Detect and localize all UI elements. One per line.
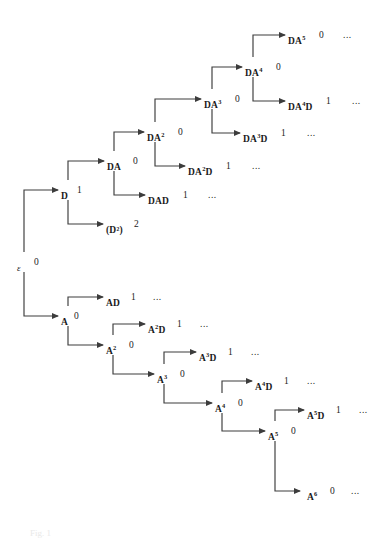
node-value-DAD: 1 xyxy=(183,191,188,201)
node-label-DA4: DA4 xyxy=(245,68,263,78)
node-value-A3: 0 xyxy=(180,370,185,380)
node-label-A3: A3 xyxy=(157,375,167,385)
node-value-A2D: 1 xyxy=(177,320,182,330)
node-value-D2: 2 xyxy=(134,220,139,230)
tree-edge xyxy=(222,413,265,431)
node-ellipsis-A2D: ... xyxy=(200,320,209,330)
tree-edge xyxy=(212,67,242,89)
node-label-suffix-A4D: D xyxy=(265,382,272,392)
node-label-exponent-DA4: 4 xyxy=(259,66,262,73)
node-ellipsis-A3D: ... xyxy=(251,348,260,358)
node-ellipsis-A4D: ... xyxy=(307,377,316,387)
tree-edge xyxy=(212,109,240,133)
tree-node-A3D: A3D1... xyxy=(199,348,217,364)
tree-edge xyxy=(68,326,103,345)
node-value-DA5: 0 xyxy=(319,31,324,41)
node-ellipsis-DA4D: ... xyxy=(352,97,361,107)
tree-edges-canvas xyxy=(0,0,387,541)
tree-edge xyxy=(113,355,154,374)
tree-edge xyxy=(114,132,144,151)
node-value-A2: 0 xyxy=(129,341,134,351)
tree-edge xyxy=(24,190,58,252)
node-label-A2D: A2D xyxy=(148,325,166,335)
tree-node-A3: A30 xyxy=(157,370,167,386)
node-label-DA2: DA2 xyxy=(147,133,165,143)
tree-node-DA5: DA50... xyxy=(288,31,306,47)
node-label-suffix-A2D: D xyxy=(158,325,165,335)
node-ellipsis-AD: ... xyxy=(153,293,162,303)
tree-node-A: A0 xyxy=(61,312,68,328)
node-value-A6: 0 xyxy=(330,487,335,497)
tree-node-DA4: DA40 xyxy=(245,63,263,79)
node-label-DA2D: DA2D xyxy=(188,167,213,177)
node-label-suffix-DA4D: D xyxy=(306,102,313,112)
tree-node-DA2: DA20 xyxy=(147,128,165,144)
tree-node-A4: A40 xyxy=(215,399,225,415)
node-value-A4: 0 xyxy=(238,399,243,409)
node-label-suffix-DA2D: D xyxy=(206,167,213,177)
tree-node-DA4D: DA4D1... xyxy=(288,97,313,113)
node-label-AD: AD xyxy=(106,298,120,308)
node-ellipsis-DA3D: ... xyxy=(307,129,316,139)
tree-node-A2: A20 xyxy=(106,341,116,357)
node-value-DA2: 0 xyxy=(178,128,183,138)
tree-node-DA2D: DA2D1... xyxy=(188,162,213,178)
node-label-A4: A4 xyxy=(215,404,225,414)
node-value-DA3D: 1 xyxy=(281,129,286,139)
tree-node-D2: (D²)2 xyxy=(106,220,123,236)
node-label-exponent-DA3: 3 xyxy=(218,98,221,105)
node-ellipsis-DA5: ... xyxy=(343,31,352,41)
tree-edge xyxy=(24,272,58,316)
node-label-DAD: DAD xyxy=(148,196,169,206)
tree-edge xyxy=(68,297,103,306)
node-label-exponent-A6: 6 xyxy=(314,490,317,497)
node-label-suffix-A3D: D xyxy=(209,353,216,363)
node-value-A: 0 xyxy=(74,312,79,322)
node-label-A3D: A3D xyxy=(199,353,217,363)
node-label-exponent-DA5: 5 xyxy=(302,34,305,41)
node-ellipsis-A6: ... xyxy=(351,487,360,497)
tree-edge xyxy=(155,99,201,122)
node-label-DA5: DA5 xyxy=(288,36,306,46)
tree-edge xyxy=(222,381,252,393)
node-label-exponent-DA2: 2 xyxy=(161,131,164,138)
node-label-A: A xyxy=(61,317,68,327)
node-label-exponent-A5: 5 xyxy=(275,430,278,437)
tree-node-A2D: A2D1... xyxy=(148,320,166,336)
tree-node-A5: A50 xyxy=(268,427,278,443)
node-label-DA4D: DA4D xyxy=(288,102,313,112)
tree-node-A4D: A4D1... xyxy=(255,377,273,393)
node-value-D: 1 xyxy=(77,186,82,196)
tree-edge xyxy=(275,441,300,491)
tree-edge xyxy=(155,142,185,166)
node-value-DA3: 0 xyxy=(235,95,240,105)
node-label-D: D xyxy=(61,191,68,201)
tree-edge xyxy=(275,410,304,421)
node-label-exponent-A2: 2 xyxy=(113,344,116,351)
tree-node-A6: A60... xyxy=(307,487,317,503)
tree-edge xyxy=(253,77,285,101)
node-label-DA3: DA3 xyxy=(204,100,222,110)
tree-node-DA3: DA30 xyxy=(204,95,222,111)
node-label-DA3D: DA3D xyxy=(243,134,268,144)
tree-edge xyxy=(164,352,196,364)
tree-edge xyxy=(164,384,212,403)
node-label-A4D: A4D xyxy=(255,382,273,392)
node-label-A5D: A5D xyxy=(307,411,325,421)
node-value-A5: 0 xyxy=(291,427,296,437)
node-label-root: ε xyxy=(17,263,21,273)
node-value-DA4D: 1 xyxy=(326,97,331,107)
node-value-A3D: 1 xyxy=(228,348,233,358)
node-value-DA: 0 xyxy=(133,157,138,167)
tree-node-AD: AD1... xyxy=(106,293,120,309)
node-value-DA4: 0 xyxy=(276,63,281,73)
tree-node-DAD: DAD1... xyxy=(148,191,169,207)
tree-node-DA3D: DA3D1... xyxy=(243,129,268,145)
node-label-suffix-A5D: D xyxy=(317,411,324,421)
node-label-D2: (D²) xyxy=(106,225,123,235)
tree-node-A5D: A5D1... xyxy=(307,406,325,422)
node-value-A5D: 1 xyxy=(336,406,341,416)
node-value-A4D: 1 xyxy=(284,377,289,387)
node-label-suffix-DA3D: D xyxy=(261,134,268,144)
tree-edge xyxy=(68,161,104,180)
